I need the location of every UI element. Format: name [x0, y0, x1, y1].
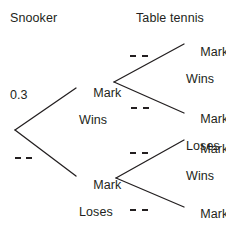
branch-label-blank-snooker-lose: [15, 157, 32, 161]
node-tt-mark-wins-after-win-line1: Mark: [200, 45, 226, 59]
branch-label-blank-tt-lose-win: [130, 152, 148, 156]
branch-label-blank-tt-lose-lose: [130, 209, 148, 213]
branch-snooker-lose-to-tt-win: [116, 140, 184, 178]
node-tt-mark-loses-after-lose-line1: Mark: [200, 207, 226, 221]
node-snooker-mark-wins-line2: Wins: [79, 114, 121, 128]
branch-label-blank-tt-win-win: [130, 55, 148, 59]
node-snooker-mark-loses-line1: Mark: [93, 178, 121, 192]
branch-label-blank-tt-win-lose: [131, 107, 149, 111]
tree-diagram-canvas: Snooker Table tennis 0.3 Mark Wins Mark …: [0, 0, 226, 234]
node-tt-mark-wins-after-lose-line2: Wins: [186, 170, 226, 184]
branch-root-to-snooker-lose: [15, 130, 76, 176]
header-snooker: Snooker: [10, 11, 57, 25]
node-snooker-mark-loses-line2: Loses: [79, 206, 121, 220]
node-snooker-mark-loses: Mark Loses: [79, 165, 121, 234]
branch-snooker-lose-to-tt-lose: [116, 178, 184, 207]
node-snooker-mark-wins: Mark Wins: [79, 73, 121, 154]
branch-snooker-win-to-tt-lose: [114, 82, 184, 113]
branch-snooker-win-to-tt-win: [114, 44, 184, 82]
node-tt-mark-loses-after-win-line1: Mark: [200, 112, 226, 126]
node-tt-mark-loses-after-lose: Mark Loses: [186, 194, 226, 234]
branch-label-snooker-win: 0.3: [10, 89, 28, 103]
header-table-tennis: Table tennis: [136, 11, 204, 25]
node-tt-mark-wins-after-lose-line1: Mark: [200, 142, 226, 156]
node-snooker-mark-wins-line1: Mark: [93, 86, 121, 100]
node-tt-mark-wins-after-win-line2: Wins: [186, 73, 226, 87]
